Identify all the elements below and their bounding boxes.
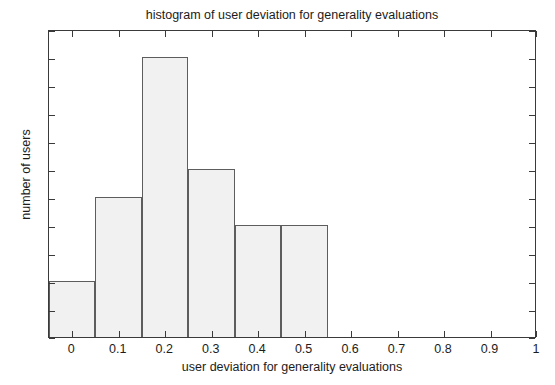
histogram-figure: histogram of user deviation for generali… xyxy=(0,0,555,385)
y-axis-label: number of users xyxy=(19,100,34,250)
x-tick-label: 0.5 xyxy=(295,342,312,356)
x-tick-label: 0.6 xyxy=(341,342,358,356)
x-tick-label: 0.4 xyxy=(248,342,265,356)
x-tick-label: 0 xyxy=(68,342,75,356)
x-tick-label: 0.3 xyxy=(202,342,219,356)
y-tick-labels: 01234567891011 xyxy=(0,0,555,385)
x-tick-label: 1 xyxy=(533,342,540,356)
x-tick-label: 0.2 xyxy=(155,342,172,356)
x-tick-label: 0.8 xyxy=(434,342,451,356)
x-tick-label: 0.7 xyxy=(388,342,405,356)
x-tick-label: 0.9 xyxy=(481,342,498,356)
x-axis-label: user deviation for generality evaluation… xyxy=(48,360,536,375)
x-tick-label: 0.1 xyxy=(109,342,126,356)
